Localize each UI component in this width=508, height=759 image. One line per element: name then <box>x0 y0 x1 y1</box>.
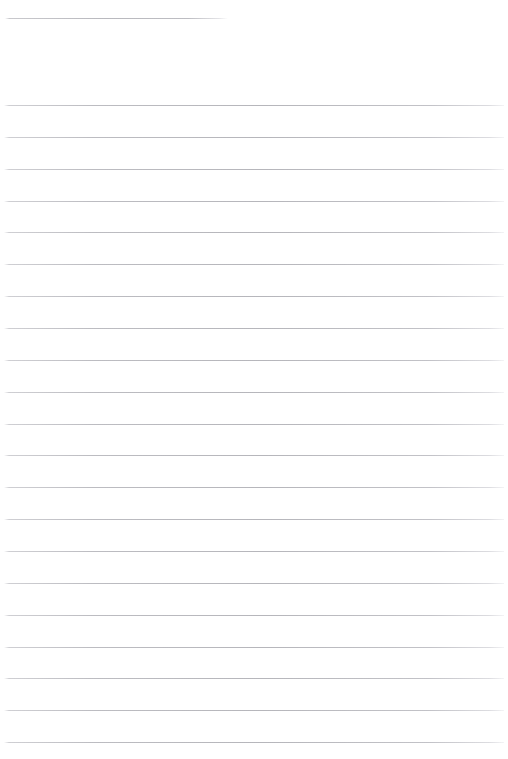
title-rule <box>5 18 228 19</box>
body-rule <box>4 296 504 297</box>
writing-area <box>0 0 508 759</box>
body-rule <box>4 710 504 711</box>
body-rule <box>4 201 504 202</box>
body-rule <box>4 519 504 520</box>
body-rule <box>4 392 504 393</box>
body-rule <box>4 264 504 265</box>
body-rule <box>4 615 504 616</box>
body-rule <box>4 360 504 361</box>
body-rule <box>4 137 504 138</box>
body-rule <box>4 455 504 456</box>
body-rule <box>4 105 504 106</box>
body-rule <box>4 169 504 170</box>
body-rule <box>4 232 504 233</box>
body-rule <box>4 742 504 743</box>
body-rule <box>4 487 504 488</box>
ruled-paper-page <box>0 0 508 759</box>
body-rule <box>4 583 504 584</box>
body-rule <box>4 328 504 329</box>
body-rule <box>4 424 504 425</box>
body-rule <box>4 647 504 648</box>
body-rule <box>4 678 504 679</box>
body-rule <box>4 551 504 552</box>
